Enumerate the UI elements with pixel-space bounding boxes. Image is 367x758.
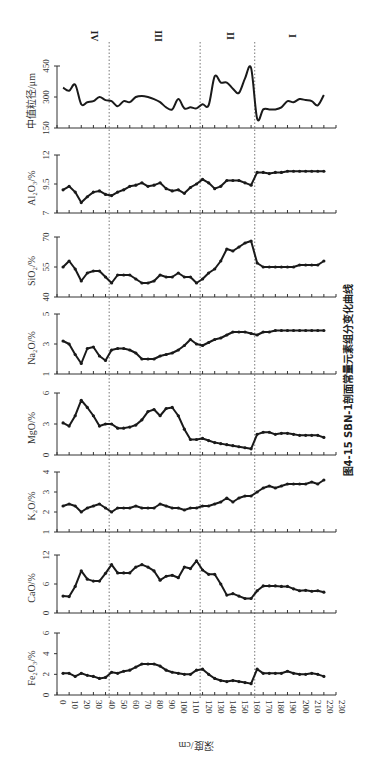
data-point xyxy=(171,406,174,409)
figure-caption: 图4-15 SBN-1剖面常量元素组分变化曲线 xyxy=(342,284,354,477)
data-point xyxy=(195,182,198,185)
data-point xyxy=(134,565,137,568)
panel-na2o: 135Na₂O/% xyxy=(26,311,336,376)
data-point xyxy=(122,506,125,509)
data-point xyxy=(110,510,113,513)
data-point xyxy=(268,431,271,434)
data-point xyxy=(298,434,301,437)
data-point xyxy=(134,666,137,669)
data-point xyxy=(74,191,77,194)
data-point xyxy=(152,662,155,665)
panel-al2o3: 79.512Al₂O₃/% xyxy=(26,151,336,216)
x-tick-label: 40 xyxy=(107,700,117,710)
data-point xyxy=(159,354,162,357)
data-point xyxy=(183,275,186,278)
data-point xyxy=(122,427,125,430)
y-axis-title-mgo: MgO/% xyxy=(26,412,37,444)
data-point xyxy=(110,194,113,197)
data-point xyxy=(237,445,240,448)
data-point xyxy=(219,259,222,262)
data-point xyxy=(74,675,77,678)
data-point xyxy=(110,348,113,351)
data-point xyxy=(183,192,186,195)
data-point xyxy=(310,170,313,173)
data-point xyxy=(268,484,271,487)
data-point xyxy=(292,170,295,173)
data-point xyxy=(110,671,113,674)
x-tick-label: 200 xyxy=(301,700,311,714)
data-point xyxy=(68,185,71,188)
data-point xyxy=(146,357,149,360)
data-point xyxy=(207,673,210,676)
data-point xyxy=(286,482,289,485)
data-point xyxy=(225,443,228,446)
data-point xyxy=(92,580,95,583)
data-point xyxy=(68,259,71,262)
x-tick-label: 120 xyxy=(204,700,214,714)
data-point xyxy=(165,669,168,672)
data-point xyxy=(280,585,283,588)
data-point xyxy=(189,338,192,341)
data-point xyxy=(140,418,143,421)
axis-frame xyxy=(57,472,336,532)
data-point xyxy=(140,662,143,665)
data-point xyxy=(298,170,301,173)
x-tick-label: 130 xyxy=(216,700,226,714)
data-point xyxy=(116,506,119,509)
data-point xyxy=(195,281,198,284)
multi-panel-line-chart: IVIIIIII 150300450中值粒径/μm79.512Al₂O₃/%40… xyxy=(0,0,367,758)
data-point xyxy=(219,679,222,682)
data-point xyxy=(213,441,216,444)
panel-sio2: 405570SiO₂/% xyxy=(26,232,336,302)
data-point xyxy=(292,482,295,485)
data-point xyxy=(98,354,101,357)
data-point xyxy=(80,399,83,402)
data-point xyxy=(140,181,143,184)
data-point xyxy=(171,506,174,509)
data-point xyxy=(110,422,113,425)
data-point xyxy=(195,669,198,672)
x-tick-label: 110 xyxy=(191,700,201,714)
y-axis-title-median_grain: 中值粒径/μm xyxy=(25,73,37,129)
data-point xyxy=(316,170,319,173)
data-point xyxy=(134,351,137,354)
data-point xyxy=(322,675,325,678)
data-point xyxy=(262,486,265,489)
data-point xyxy=(274,265,277,268)
data-point xyxy=(201,504,204,507)
zone-label-i: I xyxy=(287,34,298,38)
data-point xyxy=(274,486,277,489)
data-point xyxy=(292,433,295,436)
data-point xyxy=(292,265,295,268)
y-tick-label: 6 xyxy=(41,390,51,395)
data-point xyxy=(286,670,289,673)
data-point xyxy=(280,171,283,174)
data-point xyxy=(268,265,271,268)
data-point xyxy=(201,344,204,347)
data-point xyxy=(207,341,210,344)
y-tick-label: 6 xyxy=(41,630,51,635)
data-point xyxy=(256,171,259,174)
data-point xyxy=(171,275,174,278)
y-tick-label: 300 xyxy=(41,90,51,104)
data-point xyxy=(304,329,307,332)
data-point xyxy=(183,508,186,511)
data-point xyxy=(146,281,149,284)
data-point xyxy=(256,433,259,436)
data-point xyxy=(189,506,192,509)
data-point xyxy=(116,571,119,574)
data-point xyxy=(183,428,186,431)
data-point xyxy=(134,504,137,507)
data-point xyxy=(316,434,319,437)
data-point xyxy=(249,682,252,685)
y-axis-title-sio2: SiO₂/% xyxy=(26,256,37,286)
data-point xyxy=(256,490,259,493)
data-point xyxy=(225,247,228,250)
data-point xyxy=(316,673,319,676)
data-point xyxy=(61,504,64,507)
data-point xyxy=(74,267,77,270)
data-point xyxy=(207,271,210,274)
data-point xyxy=(68,502,71,505)
data-point xyxy=(310,434,313,437)
data-point xyxy=(310,263,313,266)
